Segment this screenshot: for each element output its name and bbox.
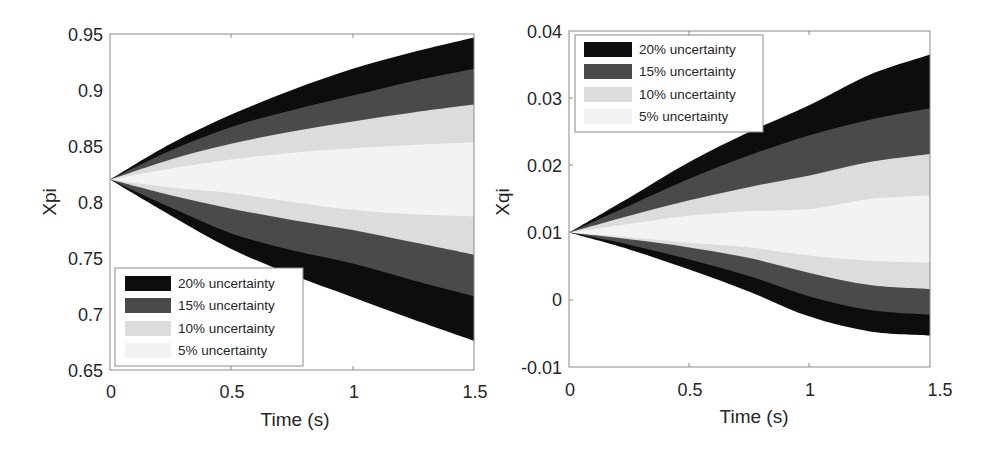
x-tick-label: 1 — [805, 380, 815, 400]
legend-xpi: 20% uncertainty 15% uncertainty 10% unce… — [115, 268, 303, 366]
x-tick-label: 0.5 — [219, 382, 244, 402]
y-axis-label-xpi: Xpi — [39, 188, 60, 215]
legend-label: 15% uncertainty — [178, 298, 275, 313]
legend-label: 5% uncertainty — [178, 343, 268, 358]
legend-label: 20% uncertainty — [178, 276, 275, 291]
y-tick-label: 0.75 — [68, 249, 103, 269]
legend-swatch-5 — [584, 109, 632, 124]
figure: 0.95 0.9 0.85 0.8 0.75 0.7 0.65 Xpi 0 0.… — [0, 0, 987, 452]
y-tick-label: 0.03 — [527, 89, 562, 109]
legend-label: 10% uncertainty — [178, 321, 275, 336]
chart-xpi: 0.95 0.9 0.85 0.8 0.75 0.7 0.65 Xpi 0 0.… — [39, 25, 488, 430]
y-axis-label-xqi: Xqi — [492, 188, 513, 215]
legend-xqi: 20% uncertainty 15% uncertainty 10% unce… — [575, 35, 763, 132]
y-tick-label: 0.85 — [68, 137, 103, 157]
legend-swatch-20 — [584, 42, 632, 57]
legend-swatch-5 — [125, 343, 171, 358]
x-tick-label: 1 — [349, 382, 359, 402]
y-tick-label: 0.04 — [527, 22, 562, 42]
legend-label: 15% uncertainty — [639, 64, 736, 79]
y-axis-xqi: 0.04 0.03 0.02 0.01 0 -0.01 Xqi — [492, 22, 562, 378]
y-tick-label: 0.95 — [68, 25, 103, 45]
legend-swatch-20 — [125, 276, 171, 291]
legend-label: 10% uncertainty — [639, 87, 736, 102]
x-axis-label-xpi: Time (s) — [261, 409, 330, 430]
legend-swatch-10 — [125, 321, 171, 336]
legend-swatch-10 — [584, 87, 632, 102]
y-tick-label: 0.7 — [78, 305, 103, 325]
x-axis-label-xqi: Time (s) — [720, 406, 789, 427]
x-tick-label: 0.5 — [677, 380, 702, 400]
x-tick-label: 1.5 — [927, 380, 952, 400]
y-tick-label: -0.01 — [521, 358, 562, 378]
y-tick-label: 0.65 — [68, 361, 103, 381]
legend-swatch-15 — [125, 298, 171, 313]
x-tick-label: 0 — [106, 382, 116, 402]
chart-xqi: 0.04 0.03 0.02 0.01 0 -0.01 Xqi 0 0.5 1 … — [492, 22, 953, 427]
y-tick-label: 0.01 — [527, 223, 562, 243]
legend-label: 20% uncertainty — [639, 42, 736, 57]
x-tick-label: 0 — [565, 380, 575, 400]
y-tick-label: 0.8 — [78, 193, 103, 213]
legend-swatch-15 — [584, 64, 632, 79]
x-tick-label: 1.5 — [462, 382, 487, 402]
y-tick-label: 0.9 — [78, 81, 103, 101]
y-tick-label: 0 — [552, 290, 562, 310]
y-axis-xpi: 0.95 0.9 0.85 0.8 0.75 0.7 0.65 Xpi — [39, 25, 103, 381]
y-tick-label: 0.02 — [527, 156, 562, 176]
legend-label: 5% uncertainty — [639, 109, 729, 124]
